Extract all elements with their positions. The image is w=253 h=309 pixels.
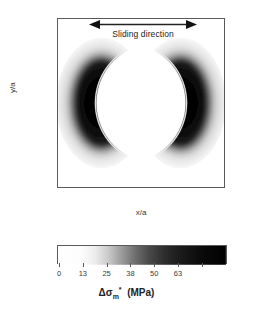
- xtick-1: [91, 187, 92, 188]
- heatmap-svg: [58, 19, 224, 187]
- ytick-2: [57, 86, 58, 87]
- colorbar-gradient-svg: [58, 246, 226, 265]
- sigma-symbol: σ: [106, 287, 113, 298]
- delta-symbol: Δ: [99, 287, 106, 298]
- cbtick-3: [130, 263, 131, 267]
- cbtick-5: [178, 263, 179, 267]
- colorbar-panel: 0 13 25 38 50 63: [57, 245, 227, 264]
- colorbar-caption: Δσm* (MPa): [25, 286, 228, 300]
- cbtick-1: [83, 263, 84, 267]
- xtick-5: [224, 187, 225, 188]
- cbtick-0: [59, 263, 60, 267]
- cbticklabel-5: 63: [174, 269, 182, 278]
- stress-field-heatmap: [58, 19, 224, 187]
- ytick-3: [57, 120, 58, 121]
- figure-root: Sliding direction -2.0 -1.2 -0.4 0.4 1.2…: [0, 0, 253, 309]
- cbticklabel-0: 0: [57, 269, 61, 278]
- cbticklabel-2: 25: [102, 269, 110, 278]
- left-crescent-lobe: [62, 44, 141, 163]
- ytick-5: [57, 187, 58, 188]
- xtick-4: [191, 187, 192, 188]
- ytick-4: [57, 153, 58, 154]
- cbtick-4: [154, 263, 155, 267]
- cbticklabel-1: 13: [79, 269, 87, 278]
- star-superscript: *: [119, 286, 122, 293]
- y-axis-title: y/a: [8, 82, 17, 93]
- subscript-m: m: [113, 293, 119, 300]
- colorbar-gradient: [58, 246, 226, 263]
- ytick-1: [57, 53, 58, 54]
- cbticklabel-3: 38: [126, 269, 134, 278]
- ytick-0: [57, 19, 58, 20]
- right-crescent-lobe: [141, 44, 220, 163]
- cbtick-2: [107, 263, 108, 267]
- x-axis-title: x/a: [57, 208, 225, 217]
- xtick-3: [158, 187, 159, 188]
- cbticklabel-4: 50: [150, 269, 158, 278]
- xtick-2: [124, 187, 125, 188]
- main-plot-panel: Sliding direction -2.0 -1.2 -0.4 0.4 1.2…: [57, 18, 225, 188]
- units-mpa: (MPa): [127, 287, 154, 298]
- xtick-0: [58, 187, 59, 188]
- cbtick-6: [202, 263, 203, 267]
